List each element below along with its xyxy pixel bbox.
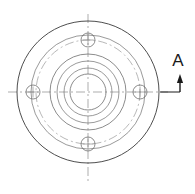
flange-top-view-drawing: A [0,0,195,194]
section-label-a: A [172,51,184,70]
section-marker-a: A [160,51,184,92]
section-arrow-head [177,74,183,83]
cad-drawing-canvas: A [0,0,195,194]
